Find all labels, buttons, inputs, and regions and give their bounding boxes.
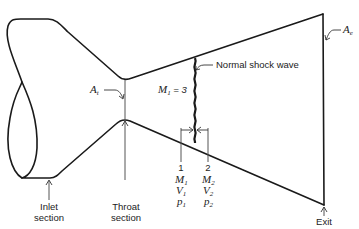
shock-label: Normal shock wave [216,59,299,70]
inlet-label-line1: Inlet [40,201,58,212]
throat-area-label: At [89,83,100,97]
station-2-number: 2 [205,162,210,173]
throat-label-line1: Throat [112,201,140,212]
exit-label-line1: Exit [316,216,332,227]
exit-area-label: Ae [342,23,353,37]
nozzle-lower-wall [22,82,324,205]
nozzle-diagram: At Ae Normal shock wave M1 = 3 1 M1 V1 p… [0,0,359,229]
exit-section-line [323,14,324,205]
exit-label-line2: section, e [304,226,344,229]
inlet-label-line2: section [34,212,64,223]
station-1-number: 1 [178,162,183,173]
upstream-mach-label: M1 = 3 [157,83,187,97]
nozzle-upper-wall [7,14,323,178]
normal-shock-wave [194,58,195,143]
throat-label-line2: section [111,212,141,223]
